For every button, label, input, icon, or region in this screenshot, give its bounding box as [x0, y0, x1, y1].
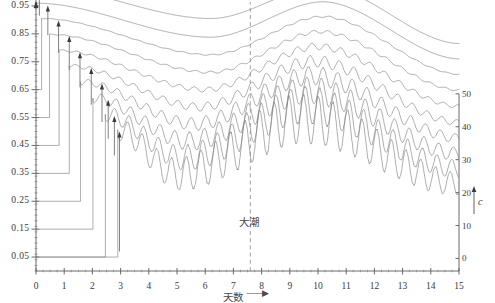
right-tick-label: 20	[462, 188, 471, 197]
right-tick-label: 0	[462, 254, 467, 263]
x-tick-label: 4	[146, 282, 151, 292]
onset-arrow-head	[106, 100, 110, 106]
y-tick-label: 0.85	[11, 29, 29, 39]
y-tick-label: 0.05	[11, 252, 29, 262]
x-tick-label: 12	[370, 282, 380, 292]
c-axis-arrowhead	[472, 186, 477, 192]
x-tick-label: 2	[90, 282, 95, 292]
onset-arrow-head	[46, 5, 50, 11]
x-tick-label: 6	[203, 282, 208, 292]
x-tick-label: 3	[118, 282, 123, 292]
y-tick-label: 0.35	[11, 169, 29, 179]
curve-8	[37, 77, 459, 229]
y-tick-label: 0.75	[11, 57, 29, 67]
y-tick-label: 0.95	[11, 1, 29, 11]
y-tick-label: 0.55	[11, 113, 29, 123]
onset-arrow-head	[67, 36, 71, 42]
x-tick-label: 15	[454, 282, 464, 292]
right-tick-label: 30	[462, 155, 471, 164]
right-tick-label: 40	[462, 122, 471, 131]
curve-10	[37, 94, 459, 257]
y-tick-label: 0.25	[11, 197, 29, 207]
curve-1	[36, 0, 459, 44]
right-tick-label: 10	[462, 221, 471, 230]
onset-arrow-head	[112, 116, 116, 122]
y-tick-label: 0.45	[11, 141, 29, 151]
x-axis-title: 天数	[223, 292, 243, 303]
x-tick-label: 10	[313, 282, 323, 292]
x-tick-label: 9	[287, 282, 292, 292]
x-tick-label: 13	[398, 282, 408, 292]
x-tick-label: 1	[62, 282, 67, 292]
x-axis-arrow: ——▶	[246, 289, 268, 298]
onset-arrow-head	[56, 20, 60, 26]
spring-tide-label: 大潮	[239, 217, 259, 228]
x-tick-label: 5	[175, 282, 180, 292]
y-tick-label: 0.15	[11, 224, 29, 234]
right-axis-title: c	[478, 197, 482, 207]
y-axis-arrowhead	[34, 1, 39, 8]
x-tick-label: 0	[34, 282, 39, 292]
right-tick-label: 50	[462, 89, 471, 98]
y-tick-label: 0.65	[11, 85, 29, 95]
x-tick-label: 14	[426, 282, 436, 292]
x-tick-label: 11	[342, 282, 351, 292]
curve-3	[37, 16, 459, 89]
curve-9	[37, 86, 459, 257]
